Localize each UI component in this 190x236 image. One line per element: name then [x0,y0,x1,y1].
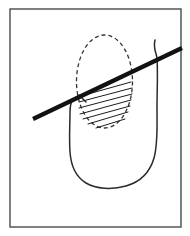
figure-illustration [0,0,190,236]
figure-root [0,0,190,236]
canvas-background [0,0,190,236]
